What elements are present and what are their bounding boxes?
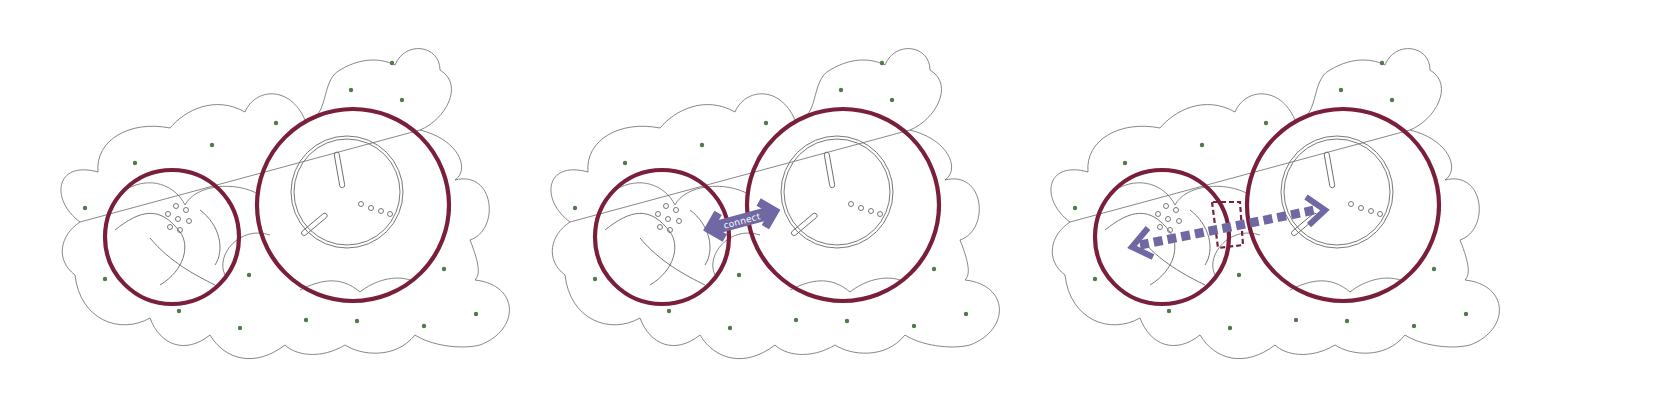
drum-building <box>1281 136 1393 248</box>
site-plan-1 <box>0 0 560 395</box>
cloud-outline <box>551 49 999 359</box>
tree-dots <box>83 61 478 330</box>
large-ring <box>1247 109 1439 301</box>
site-plan-3 <box>1040 0 1600 395</box>
panel-linked <box>1040 0 1600 395</box>
drum-building <box>781 136 893 248</box>
diagram-stage: connect <box>0 0 1660 395</box>
connect-arrow: connect <box>699 194 785 246</box>
small-building <box>605 204 710 286</box>
panel-separate <box>0 0 560 395</box>
tree-dots <box>573 61 968 330</box>
cloud-outline <box>1051 49 1499 359</box>
panel-connect: connect <box>520 0 1080 395</box>
site-plan-2: connect <box>520 0 1080 395</box>
large-ring <box>257 109 449 301</box>
large-ring <box>747 109 939 301</box>
tree-dots <box>1073 61 1468 330</box>
cloud-outline <box>61 49 509 359</box>
small-building <box>115 204 220 286</box>
drum-building <box>291 136 403 248</box>
